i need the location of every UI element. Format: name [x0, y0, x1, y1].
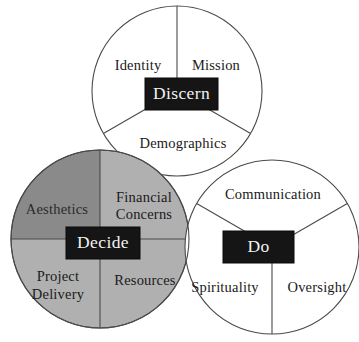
sector-label-resources: Resources: [114, 272, 176, 288]
sector-label-project-delivery-line1: Project: [37, 268, 79, 284]
sector-label-mission: Mission: [192, 57, 241, 73]
decide-quadrant-aesthetics-fill: [11, 150, 100, 239]
sector-label-financial-concerns: Financial Concerns: [116, 189, 173, 222]
sector-label-oversight: Oversight: [288, 279, 347, 295]
sector-label-financial-concerns-line1: Financial: [116, 189, 172, 205]
core-box-do[interactable]: Do: [223, 231, 294, 263]
sector-label-project-delivery-line2: Delivery: [32, 286, 85, 302]
sector-label-identity: Identity: [115, 57, 162, 73]
core-box-decide-label: Decide: [77, 232, 129, 252]
venn-diagram-canvas: Identity Mission Demographics Aesthetics…: [0, 0, 359, 342]
venn-diagram: Identity Mission Demographics Aesthetics…: [0, 0, 359, 342]
sector-label-demographics: Demographics: [140, 135, 227, 151]
sector-label-spirituality: Spirituality: [191, 279, 259, 295]
sector-label-communication: Communication: [225, 186, 322, 202]
core-box-decide[interactable]: Decide: [66, 227, 140, 259]
core-box-do-label: Do: [247, 236, 269, 256]
sector-label-financial-concerns-line2: Concerns: [116, 206, 173, 222]
sector-label-aesthetics: Aesthetics: [26, 201, 89, 217]
core-box-discern-label: Discern: [153, 83, 210, 103]
core-box-discern[interactable]: Discern: [145, 78, 218, 110]
